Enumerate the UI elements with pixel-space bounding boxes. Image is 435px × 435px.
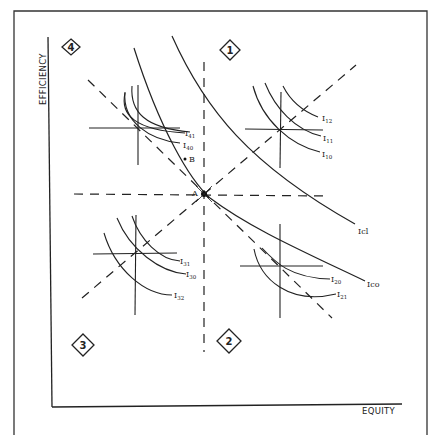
y-axis <box>48 37 52 407</box>
x-axis <box>52 404 402 407</box>
ascending-diagonal-dashed <box>82 65 356 298</box>
equity-efficiency-diagram: EFFICIENCY EQUITY A B I41 I40 I12 I11 I1… <box>0 0 435 435</box>
svg-text:3: 3 <box>80 340 87 351</box>
quadrant-4-curves <box>89 85 190 165</box>
label-i20: I20 <box>331 275 342 285</box>
diagram-stage: EFFICIENCY EQUITY A B I41 I40 I12 I11 I1… <box>0 0 435 435</box>
label-i10: I10 <box>322 150 333 160</box>
quadrant-2-marker: 2 <box>217 329 241 353</box>
point-b-label: B <box>189 155 195 164</box>
x-axis-label: EQUITY <box>362 406 395 416</box>
point-a-star <box>196 186 212 202</box>
label-i41: I41 <box>185 129 195 139</box>
quadrant-3-marker: 3 <box>72 334 94 356</box>
svg-text:1: 1 <box>227 45 234 56</box>
label-ic1: Icl <box>358 227 369 236</box>
label-i21: I21 <box>337 290 347 300</box>
y-axis-label: EFFICIENCY <box>38 53 48 105</box>
point-b-marker <box>184 158 187 161</box>
quadrant-3-curves <box>93 215 186 315</box>
label-i31: I31 <box>180 257 190 267</box>
label-i11: I11 <box>323 134 333 144</box>
svg-text:2: 2 <box>226 336 233 347</box>
contract-curve-ic0 <box>134 48 365 281</box>
label-ic0: Ico <box>367 280 380 289</box>
reference-lines <box>74 62 356 352</box>
quadrant-4-marker: 4 <box>62 39 80 55</box>
label-i30: I30 <box>186 270 197 280</box>
contract-curve-ic1 <box>172 36 355 224</box>
outer-frame <box>14 11 427 435</box>
descending-diagonal-dashed <box>88 80 332 318</box>
label-i32: I32 <box>174 291 184 301</box>
label-i40: I40 <box>183 141 194 151</box>
label-i12: I12 <box>322 114 332 124</box>
quadrant-2-curves <box>240 224 336 318</box>
svg-text:4: 4 <box>68 42 75 53</box>
quadrant-1-marker: 1 <box>220 40 240 60</box>
point-a-label: A <box>191 189 198 198</box>
